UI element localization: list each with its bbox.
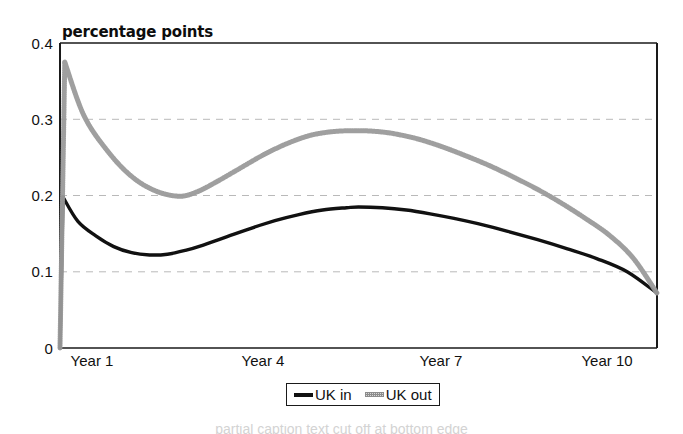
series-layer	[60, 62, 657, 348]
chart-legend: UK in UK out	[286, 383, 440, 406]
cut-off-caption-text: partial caption text cut off at bottom e…	[0, 424, 683, 434]
legend-line-swatch-dotted-icon	[365, 392, 384, 397]
x-tick-label: Year 7	[420, 352, 463, 370]
legend-item-uk-in: UK in	[294, 387, 352, 402]
axis-title: percentage points	[62, 24, 213, 41]
series-path	[65, 62, 657, 293]
y-tick-label: 0.3	[7, 112, 53, 127]
x-tick-label: Year 10	[581, 352, 632, 370]
chart-figure: 0.4 0.3 0.2 0.1 0 percentage points Year…	[0, 0, 683, 434]
y-tick-label: 0.2	[7, 188, 53, 203]
legend-label: UK in	[315, 387, 352, 402]
series-uk-in	[60, 197, 657, 348]
x-axis-labels: Year 1 Year 4 Year 7 Year 10	[0, 352, 683, 376]
x-tick-label: Year 4	[242, 352, 285, 370]
legend-line-swatch-solid-icon	[294, 393, 313, 397]
series-uk-out	[60, 62, 657, 348]
cut-off-caption: partial caption text cut off at bottom e…	[0, 424, 683, 434]
x-tick-label: Year 1	[71, 352, 114, 370]
y-tick-label: 0.4	[7, 36, 53, 51]
legend-label: UK out	[386, 387, 432, 402]
legend-item-uk-out: UK out	[365, 387, 432, 402]
y-tick-label: 0.1	[7, 264, 53, 279]
series-path	[63, 197, 657, 293]
